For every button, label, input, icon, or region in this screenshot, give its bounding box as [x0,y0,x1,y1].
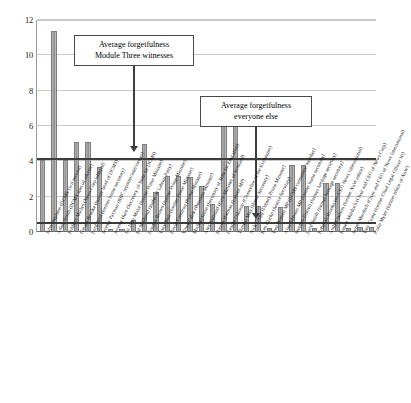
annotation-everyone-else-line1: Average forgetfulness [206,101,306,112]
y-tick-label: 8 [3,86,33,96]
annotation-module-three-arrowhead [130,146,138,152]
y-tick-label: 0 [3,227,33,237]
annotation-module-three-line1: Average forgetfulness [80,40,188,51]
x-axis-labels: John Stephens (DCMS civil servant)Adam S… [36,232,376,403]
y-tick-label: 4 [3,156,33,166]
annotation-module-three-line2: Module Three witnesses [80,51,188,62]
annotation-everyone-else-line2: everyone else [206,112,306,123]
y-tick-label: 10 [3,50,33,60]
y-tick-label: 6 [3,121,33,131]
y-tick-label: 2 [3,192,33,202]
y-tick-label: 12 [3,15,33,25]
bar [51,31,57,232]
annotation-everyone-else-average: Average forgetfulness everyone else [200,96,312,127]
y-axis: 024681012 [0,20,33,232]
annotation-module-three-average: Average forgetfulness Module Three witne… [74,35,194,66]
average-reference-line [37,158,376,160]
gridline [37,19,376,20]
annotation-module-three-leader [133,66,135,148]
